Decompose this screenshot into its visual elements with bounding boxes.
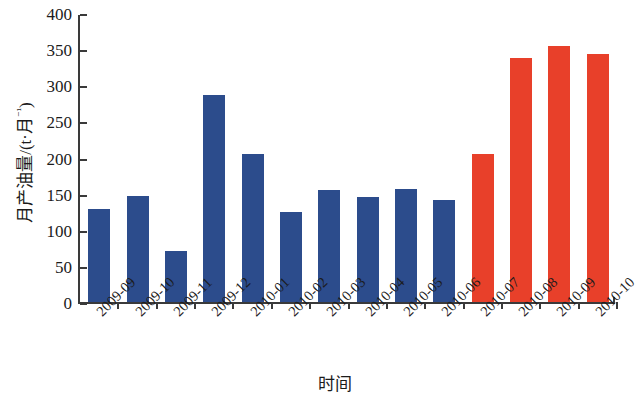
y-axis-tick-labels: 050100150200250300350400 [22, 15, 72, 304]
y-axis-tick [80, 159, 87, 161]
y-axis-tick-label: 300 [26, 77, 72, 97]
y-axis-tick [80, 195, 87, 197]
plot-area [78, 15, 615, 304]
y-axis-tick-label: 400 [26, 5, 72, 25]
y-axis-tick-label: 150 [26, 186, 72, 206]
y-axis-tick [80, 14, 87, 16]
bar-2010-08 [510, 58, 532, 302]
y-axis-tick-label: 200 [26, 150, 72, 170]
x-axis-title: 时间 [0, 370, 622, 395]
bar-2009-09 [88, 209, 110, 302]
y-axis-tick [80, 231, 87, 233]
y-axis-tick-label: 250 [26, 113, 72, 133]
y-axis-tick [80, 267, 87, 269]
y-axis-tick [80, 50, 87, 52]
y-axis-tick-label: 50 [26, 258, 72, 278]
bar-2010-09 [548, 46, 570, 302]
y-axis-tick [80, 122, 87, 124]
bar-2009-12 [203, 95, 225, 302]
y-axis-tick [80, 86, 87, 88]
y-axis-tick-label: 0 [26, 294, 72, 314]
y-axis-tick-label: 100 [26, 222, 72, 242]
x-axis-tick-labels: 2009-092009-102009-112009-122010-012010-… [78, 304, 615, 364]
bar-2010-10 [587, 54, 609, 302]
y-axis-tick-label: 350 [26, 41, 72, 61]
